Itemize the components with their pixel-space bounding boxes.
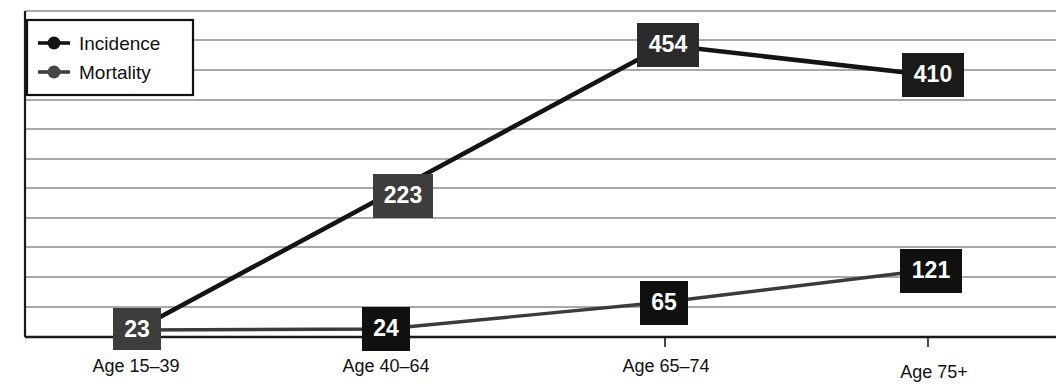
legend-dot-mortality-icon — [48, 66, 61, 79]
data-label-incidence-1: 23 — [113, 308, 161, 350]
data-label-value: 121 — [912, 257, 951, 283]
data-label-incidence-4: 410 — [902, 53, 964, 97]
legend: Incidence Mortality — [27, 20, 193, 95]
data-label-value: 223 — [384, 182, 422, 208]
data-label-mortality-3: 65 — [640, 281, 688, 325]
data-label-incidence-2: 223 — [373, 174, 433, 218]
chart-container: 23 223 454 410 24 65 121 — [0, 0, 1056, 387]
x-tick-label-1: Age 40–64 — [342, 356, 429, 376]
x-tick-marks — [136, 337, 928, 347]
legend-label-incidence: Incidence — [79, 33, 160, 54]
x-tick-label-2: Age 65–74 — [622, 356, 709, 376]
data-label-value: 410 — [914, 61, 952, 87]
legend-dot-incidence-icon — [48, 37, 61, 50]
data-label-value: 454 — [649, 31, 688, 57]
x-axis-labels: Age 15–39 Age 40–64 Age 65–74 Age 75+ — [92, 356, 967, 382]
data-label-mortality-4: 121 — [900, 249, 962, 293]
legend-label-mortality: Mortality — [79, 62, 151, 83]
x-tick-label-0: Age 15–39 — [92, 356, 179, 376]
data-label-mortality-2: 24 — [362, 307, 410, 351]
data-label-value: 24 — [373, 315, 399, 341]
line-chart: 23 223 454 410 24 65 121 — [0, 0, 1056, 387]
data-label-incidence-3: 454 — [637, 23, 699, 67]
series-line-mortality — [136, 270, 928, 330]
data-label-value: 65 — [651, 289, 677, 315]
x-tick-label-3: Age 75+ — [900, 362, 968, 382]
data-label-value: 23 — [124, 316, 150, 342]
legend-box — [27, 20, 193, 95]
